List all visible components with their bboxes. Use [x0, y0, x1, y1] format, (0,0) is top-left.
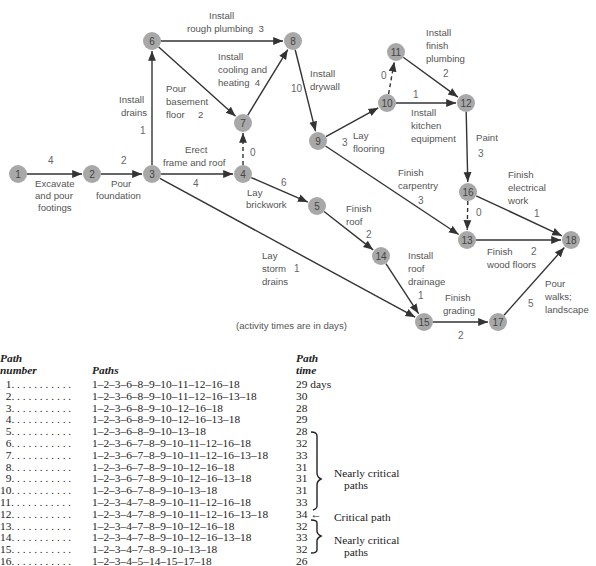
activity-label: Pour: [545, 278, 566, 289]
activity-label: Install: [310, 68, 335, 79]
event-node-4: 4: [234, 165, 252, 183]
event-node-9: 9: [309, 132, 327, 150]
activity-label: 0: [476, 207, 482, 218]
activity-label: Finish: [346, 203, 372, 214]
activity-label: 3: [418, 195, 424, 206]
activity-label: Finish: [508, 169, 534, 180]
activity-label: finish: [426, 40, 448, 51]
activity-labels: 4Excavateand pourfootings2Pourfoundation…: [35, 10, 589, 341]
activity-label: rough plumbing 3: [187, 23, 264, 34]
event-node-number: 10: [381, 98, 393, 109]
activity-label: flooring: [353, 143, 384, 154]
activity-label: Install: [411, 107, 436, 118]
activity-label: 5: [528, 298, 534, 309]
event-node-number: 8: [290, 36, 296, 47]
activity-label: drains: [262, 276, 288, 287]
activity-label: Install: [119, 94, 144, 105]
activity-label: floor 2: [166, 109, 203, 120]
activity-label: plumbing: [426, 53, 465, 64]
event-node-1: 1: [9, 165, 27, 183]
nearly-critical-label-1: Nearly critical paths: [334, 467, 399, 491]
event-node-2: 2: [83, 165, 101, 183]
activity-label: equipment: [411, 133, 456, 144]
activity-label: 2: [366, 229, 372, 240]
activity-label: grading: [443, 305, 475, 316]
event-node-number: 7: [240, 118, 246, 129]
activity-label: Install: [426, 27, 451, 38]
activity-label: Pour: [111, 178, 132, 189]
event-nodes: 123456789101112131415161718: [9, 32, 580, 331]
activity-arrow-16-13: [467, 201, 468, 230]
activity-label: 2: [531, 246, 537, 257]
activity-label: wood floors: [486, 259, 536, 270]
event-node-14: 14: [372, 247, 390, 265]
activity-label: Install: [209, 10, 234, 21]
event-node-5: 5: [308, 197, 326, 215]
activity-label: drains: [121, 107, 147, 118]
event-node-number: 17: [492, 317, 504, 328]
activity-label: brickwork: [246, 199, 287, 210]
activity-label: 2: [458, 330, 464, 341]
event-node-number: 5: [314, 201, 320, 212]
nearly-critical-label-2-line2: paths: [334, 546, 399, 558]
activity-label: foundation: [96, 190, 141, 201]
event-node-number: 4: [240, 169, 246, 180]
event-node-number: 11: [391, 47, 402, 58]
activity-label: Install: [408, 250, 433, 261]
project-network-diagram: 4Excavateand pourfootings2Pourfoundation…: [0, 0, 596, 348]
critical-path-label: Critical path: [334, 511, 391, 523]
activity-label: cooling and: [218, 64, 267, 75]
bracket-nearly-critical-1: [311, 432, 321, 510]
activity-label: walks;: [544, 291, 572, 302]
event-node-3: 3: [143, 165, 161, 183]
activity-label: 0: [250, 147, 256, 158]
event-node-number: 16: [462, 187, 474, 198]
activity-label: Lay: [247, 187, 263, 198]
activity-label: 2: [121, 155, 127, 166]
activity-label: frame and roof: [163, 157, 226, 168]
activity-label: storm: [262, 263, 286, 274]
activity-label: 3: [478, 148, 484, 159]
event-node-11: 11: [387, 43, 405, 61]
units-note: (activity times are in days): [236, 320, 347, 331]
event-node-16: 16: [459, 183, 477, 201]
activity-label: kitchen: [411, 120, 441, 131]
event-node-number: 1: [15, 169, 21, 180]
event-node-number: 13: [461, 235, 473, 246]
activity-label: Finish: [398, 167, 424, 178]
activity-label: landscape: [545, 304, 589, 315]
activity-label: 1: [418, 290, 424, 301]
activity-label: 6: [281, 177, 287, 188]
activity-label: roof: [346, 216, 363, 227]
activity-label: Install: [218, 51, 243, 62]
event-node-12: 12: [457, 94, 475, 112]
event-node-number: 14: [375, 251, 387, 262]
activity-label: drainage: [408, 276, 445, 287]
nearly-critical-label-1-line2: paths: [334, 479, 399, 491]
activity-label: 1: [534, 208, 540, 219]
brackets: [0, 348, 596, 566]
activity-label: drywall: [310, 81, 340, 92]
activity-label: Lay: [262, 250, 278, 261]
activity-label: footings: [38, 202, 72, 213]
event-node-6: 6: [143, 32, 161, 50]
event-node-number: 9: [315, 136, 321, 147]
activity-label: 10: [291, 83, 303, 94]
activity-label: 2: [443, 68, 449, 79]
activity-label: carpentry: [398, 180, 438, 191]
activity-label: and pour: [35, 190, 74, 201]
bracket-nearly-critical-2: [311, 520, 321, 553]
activity-label: Erect: [185, 144, 208, 155]
activity-label: electrical: [508, 182, 546, 193]
event-node-15: 15: [415, 313, 433, 331]
activity-arrow-10-11: [389, 62, 395, 94]
event-node-number: 12: [460, 98, 472, 109]
activity-label: 4: [48, 155, 54, 166]
activity-label: heating 4: [218, 77, 261, 88]
event-node-number: 15: [418, 317, 430, 328]
event-node-number: 6: [149, 36, 155, 47]
activity-label: Lay: [353, 130, 369, 141]
activity-label: basement: [166, 96, 208, 107]
activity-label: work: [507, 195, 528, 206]
activity-label: roof: [408, 263, 425, 274]
